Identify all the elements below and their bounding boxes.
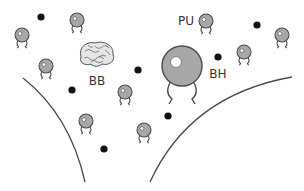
pu-blob [79,114,93,134]
dot [68,86,75,93]
pu-blob [237,45,251,65]
label-bb: BB [89,74,105,88]
pu-blob [39,59,53,79]
pu-blobs [15,13,289,143]
curve-right [150,77,292,182]
pu-blob [15,28,29,48]
dot [214,53,221,60]
label-bh: BH [209,67,226,81]
diagram-canvas: BB PU BH [0,0,304,191]
dot [37,13,44,20]
boundary-curves [23,77,292,182]
dot [134,66,141,73]
dot [253,21,260,28]
curve-left [23,78,85,182]
pu-blob [70,13,84,33]
dot [100,145,107,152]
label-pu: PU [178,14,194,28]
black-hole-blob [162,46,202,104]
pu-blob [118,85,132,105]
pu-blob [275,28,289,48]
brain-icon [80,42,113,66]
dot [164,112,171,119]
pu-blob [199,14,213,34]
pu-blob [137,123,151,143]
bh-blob [162,46,202,104]
